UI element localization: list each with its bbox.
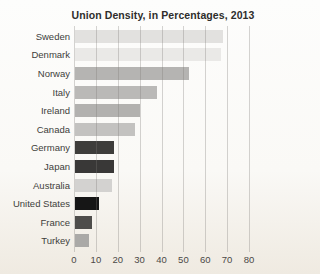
bar-row: Japan	[0, 157, 270, 176]
category-label: Turkey	[0, 235, 75, 246]
category-label: Sweden	[0, 31, 75, 42]
bar	[75, 86, 157, 99]
category-label: Denmark	[0, 49, 75, 60]
x-tick-label: 30	[134, 254, 145, 265]
bar-rows-container: SwedenDenmarkNorwayItalyIrelandCanadaGer…	[0, 27, 270, 250]
bar	[75, 179, 112, 192]
bar-row: France	[0, 213, 270, 232]
category-label: Canada	[0, 124, 75, 135]
bar	[75, 234, 89, 247]
bar-row: United States	[0, 194, 270, 213]
category-label: France	[0, 217, 75, 228]
bar	[75, 30, 223, 43]
bar-row: Sweden	[0, 27, 270, 46]
bar-row: Canada	[0, 120, 270, 139]
bar	[75, 160, 114, 173]
bar	[75, 141, 114, 154]
x-tick-label: 60	[200, 254, 211, 265]
bar	[75, 216, 92, 229]
x-tick-label: 80	[244, 254, 255, 265]
x-tick-label: 50	[178, 254, 189, 265]
category-label: Ireland	[0, 105, 75, 116]
bar	[75, 67, 189, 80]
category-label: Japan	[0, 161, 75, 172]
bar	[75, 104, 140, 117]
x-tick-label: 0	[71, 254, 76, 265]
bar-row: Turkey	[0, 232, 270, 251]
x-tick-label: 70	[222, 254, 233, 265]
bar-row: Australia	[0, 176, 270, 195]
bar-row: Norway	[0, 64, 270, 83]
bar-row: Germany	[0, 139, 270, 158]
category-label: Italy	[0, 87, 75, 98]
x-tick-label: 20	[113, 254, 124, 265]
x-tick-label: 40	[156, 254, 167, 265]
bar-row: Italy	[0, 83, 270, 102]
bar	[75, 197, 99, 210]
bar-row: Denmark	[0, 46, 270, 65]
x-axis: 01020304050607080	[74, 254, 250, 266]
chart-title: Union Density, in Percentages, 2013	[58, 9, 268, 21]
x-tick-label: 10	[91, 254, 102, 265]
category-label: Norway	[0, 68, 75, 79]
bar	[75, 123, 135, 136]
bar-row: Ireland	[0, 101, 270, 120]
bar	[75, 48, 221, 61]
category-label: United States	[0, 198, 75, 209]
category-label: Australia	[0, 180, 75, 191]
category-label: Germany	[0, 142, 75, 153]
